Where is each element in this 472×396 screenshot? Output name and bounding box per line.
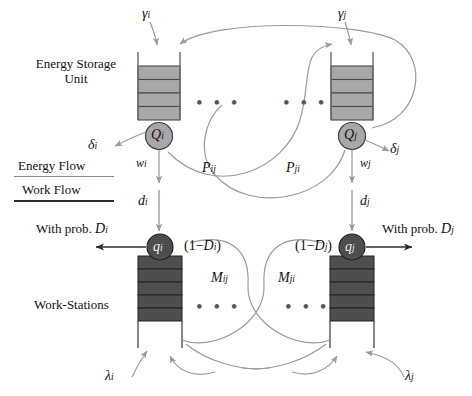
d-i-label: di — [138, 193, 148, 209]
delta-j-label: δj — [390, 141, 399, 157]
storage-cell-left-4 — [138, 107, 180, 121]
d-j-label: dj — [360, 193, 370, 209]
storage-cell-left-1 — [138, 66, 180, 80]
storage-cell-left-2 — [138, 80, 180, 94]
one-minus-D-i-label: (1−Di) — [184, 238, 221, 254]
gamma-i-arrow — [150, 22, 157, 45]
with-prob-right-label: With prob. Dj — [382, 221, 454, 237]
w-j-label: wj — [360, 157, 371, 171]
w-i-label: wi — [136, 157, 147, 171]
legend-energy-flow-rule — [14, 176, 114, 177]
work-walls-right — [330, 321, 374, 348]
energy-cross-link — [204, 105, 345, 198]
work-cell-left-2 — [138, 269, 182, 282]
ellipsis-storage-right: • • • — [283, 92, 327, 114]
legend-energy-flow-label: Energy Flow — [18, 159, 85, 174]
work-cell-right-5 — [330, 308, 374, 321]
delta-i-arrow — [115, 132, 146, 146]
storage-cell-right-1 — [331, 66, 373, 80]
work-feedback-left-arrow — [170, 356, 215, 374]
gamma-i-label: γi — [142, 6, 150, 22]
bottom-sweep-right — [242, 344, 326, 369]
lambda-i-arrow — [132, 351, 147, 377]
lambda-j-arrow — [366, 352, 404, 377]
work-cell-left-5 — [138, 308, 182, 321]
storage-unit-right — [331, 52, 373, 120]
one-minus-D-j-label: (1−Dj) — [295, 238, 332, 254]
ellipsis-station-right: • • • — [285, 296, 329, 318]
M-ij-label: Mij — [211, 270, 228, 286]
delta-i-label: δi — [88, 137, 97, 153]
ellipsis-station-left: • • • — [196, 296, 240, 318]
work-feedback-right-arrow — [292, 356, 337, 374]
storage-cell-right-4 — [331, 107, 373, 121]
gamma-j-label: γj — [338, 6, 346, 22]
legend-work-flow-rule — [14, 200, 114, 202]
ellipsis-storage-left: • • • — [196, 92, 240, 114]
q-i-label: qi — [153, 239, 163, 255]
Q-j-label: Qj — [344, 127, 357, 143]
lambda-i-label: λi — [105, 368, 114, 384]
storage-unit-left — [138, 52, 180, 120]
work-walls-left — [138, 321, 182, 348]
bottom-sweep-left — [186, 344, 270, 369]
M-ij-curve — [190, 240, 330, 343]
M-ji-label: Mji — [278, 270, 295, 286]
work-cell-left-4 — [138, 295, 182, 308]
work-stations-label: Work-Stations — [34, 298, 109, 313]
work-station-left — [138, 256, 182, 348]
delta-j-arrow — [365, 140, 389, 151]
storage-cell-right-3 — [331, 93, 373, 107]
P-ji-label: Pji — [286, 160, 300, 176]
Q-i-label: Qi — [151, 127, 164, 143]
with-prob-left-label: With prob. Di — [36, 221, 108, 237]
storage-cell-right-2 — [331, 80, 373, 94]
gamma-j-arrow — [345, 22, 351, 45]
legend-work-flow-label: Work Flow — [22, 183, 81, 198]
storage-cell-left-3 — [138, 93, 180, 107]
work-cell-right-2 — [330, 269, 374, 282]
M-ji-curve — [182, 240, 322, 343]
work-cell-left-3 — [138, 282, 182, 295]
lambda-j-label: λj — [405, 368, 414, 384]
energy-storage-unit-label: Energy Storage Unit — [18, 57, 134, 87]
q-j-label: qj — [345, 239, 355, 255]
work-cell-right-4 — [330, 295, 374, 308]
P-ij-label: Pij — [202, 160, 216, 176]
work-station-right — [330, 256, 374, 348]
work-cell-right-3 — [330, 282, 374, 295]
